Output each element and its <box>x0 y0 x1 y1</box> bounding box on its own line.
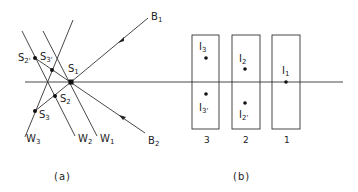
label-i1: I1 <box>282 66 289 79</box>
arrow-b1-icon <box>118 37 124 43</box>
point-i2 <box>243 67 247 71</box>
label-b1: B1 <box>151 12 162 25</box>
point-s2 <box>53 94 57 98</box>
label-s2: S2 <box>60 94 71 107</box>
label-i2-prime: I2' <box>239 110 248 123</box>
point-i1 <box>284 80 288 84</box>
box-number-2: 2 <box>243 135 249 145</box>
label-w1: W1 <box>100 134 114 147</box>
point-s3-prime <box>50 68 54 72</box>
label-s3-prime: S3' <box>40 52 53 65</box>
ray-b1 <box>71 18 148 82</box>
label-i2: I2 <box>239 54 246 67</box>
box-number-1: 1 <box>284 135 290 145</box>
point-i3 <box>204 56 208 60</box>
label-i3: I3 <box>199 42 206 55</box>
point-i3-prime <box>204 92 208 96</box>
label-i3-prime: I3' <box>199 103 208 116</box>
point-s1 <box>69 80 74 85</box>
label-w3: W3 <box>26 134 40 147</box>
label-s3: S3 <box>39 110 50 123</box>
point-s3 <box>33 109 37 113</box>
label-w2: W2 <box>78 134 92 147</box>
box-number-3: 3 <box>204 135 210 145</box>
caption-a: (a) <box>54 171 71 182</box>
caption-b: (b) <box>233 171 250 182</box>
label-s2-prime: S2' <box>18 53 31 66</box>
point-s2-prime <box>33 56 37 60</box>
label-s1: S1 <box>68 64 79 77</box>
diagram-canvas <box>0 0 358 192</box>
label-b2: B2 <box>148 136 159 149</box>
point-i2-prime <box>243 101 247 105</box>
